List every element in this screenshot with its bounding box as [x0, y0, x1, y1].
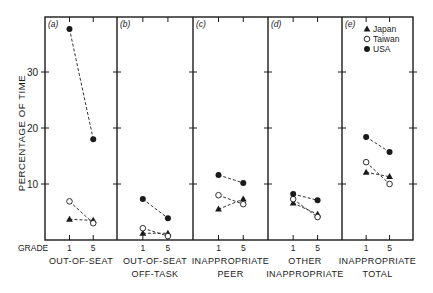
open-circle-marker	[364, 36, 370, 42]
series-line-usa	[69, 29, 93, 139]
panel-category-label: OTHER	[288, 256, 322, 266]
triangle-marker	[66, 216, 73, 222]
panel-tag: (a)	[48, 19, 59, 29]
x-tick-label: 1	[140, 243, 145, 253]
series-line-taiwan	[143, 228, 168, 236]
x-tick-label: 1	[364, 243, 369, 253]
series-line-japan	[293, 203, 317, 214]
y-axis: 102030	[27, 67, 417, 190]
filled-circle-marker	[363, 134, 369, 140]
panel-category-label: OUT-OF-SEAT	[49, 256, 113, 266]
x-tick-label: 5	[166, 243, 171, 253]
series-line-usa	[219, 175, 244, 183]
legend: JapanTaiwanUSA	[364, 24, 400, 54]
series-line-usa	[293, 194, 317, 200]
panel-category-label: OFF-TASK	[131, 269, 178, 279]
open-circle-marker	[140, 225, 146, 231]
filled-circle-marker	[165, 215, 171, 221]
panel-category-label: INAPPROPRIATE	[192, 256, 270, 266]
open-circle-marker	[240, 201, 246, 207]
panel-category-label: OUT-OF-SEAT	[123, 256, 187, 266]
triangle-marker	[240, 196, 247, 202]
chart-frame	[45, 17, 413, 240]
filled-circle-marker	[240, 180, 246, 186]
open-circle-marker	[315, 214, 321, 220]
open-circle-marker	[216, 192, 222, 198]
panel-category-label: INAPPROPRIATE	[339, 256, 417, 266]
x-axis-label-grade: GRADE	[18, 243, 49, 253]
filled-circle-marker	[66, 26, 72, 32]
panel-category-label: TOTAL	[362, 269, 392, 279]
x-tick-label: 5	[387, 243, 392, 253]
x-tick-label: 5	[241, 243, 246, 253]
open-circle-marker	[363, 159, 369, 165]
filled-circle-marker	[290, 191, 296, 197]
open-circle-marker	[165, 233, 171, 239]
filled-circle-marker	[364, 46, 370, 52]
series-line-japan	[219, 199, 244, 209]
triangle-marker	[363, 169, 370, 175]
filled-circle-marker	[315, 197, 321, 203]
legend-label: USA	[373, 44, 391, 54]
filled-circle-marker	[387, 149, 393, 155]
legend-item-taiwan: Taiwan	[364, 34, 400, 44]
panel-tag: (b)	[120, 19, 131, 29]
x-tick-label: 1	[216, 243, 221, 253]
x-tick-label: 1	[67, 243, 72, 253]
series-line-taiwan	[366, 162, 389, 184]
panel-tag: (d)	[271, 19, 282, 29]
panel-tag: (e)	[345, 19, 356, 29]
series-line-taiwan	[293, 199, 317, 217]
legend-item-usa: USA	[364, 44, 391, 54]
x-tick-label: 1	[291, 243, 296, 253]
filled-circle-marker	[90, 136, 96, 142]
y-axis-label: PERCENTAGE OF TIME	[16, 75, 27, 192]
panel-tag: (c)	[196, 19, 206, 29]
y-tick-label: 20	[27, 123, 39, 134]
open-circle-marker	[290, 196, 296, 202]
filled-circle-marker	[140, 196, 146, 202]
open-circle-marker	[67, 199, 73, 205]
x-tick-label: 5	[91, 243, 96, 253]
triangle-marker	[364, 25, 371, 31]
filled-circle-marker	[216, 172, 222, 178]
panel-category-label: INAPPROPRIATE	[266, 269, 344, 279]
legend-label: Japan	[373, 24, 396, 34]
y-tick-label: 30	[27, 67, 39, 78]
series-line-taiwan	[219, 195, 244, 204]
series-line-usa	[143, 199, 168, 218]
x-tick-label: 5	[315, 243, 320, 253]
small-multiples-line-chart: 102030 PERCENTAGE OF TIME GRADE (a)15OUT…	[0, 0, 433, 293]
panel-category-label: PEER	[217, 269, 243, 279]
panel-a: (a)15OUT-OF-SEAT	[48, 17, 113, 266]
legend-label: Taiwan	[373, 34, 400, 44]
open-circle-marker	[387, 181, 393, 187]
open-circle-marker	[90, 220, 96, 226]
legend-item-japan: Japan	[364, 24, 397, 34]
series-line-usa	[366, 137, 389, 152]
y-tick-label: 10	[27, 179, 39, 190]
plot-border	[45, 17, 413, 240]
